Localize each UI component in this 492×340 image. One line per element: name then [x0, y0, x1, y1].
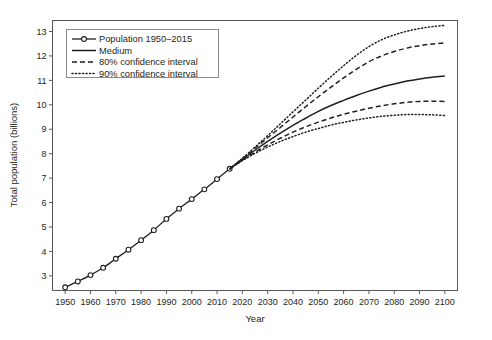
y-tick-label: 9 — [41, 124, 46, 134]
x-tick-label: 2030 — [258, 297, 278, 307]
y-tick-label: 6 — [41, 198, 46, 208]
data-point-marker — [164, 217, 169, 222]
chart-legend: Population 1950–2015 Medium 80% confiden… — [67, 30, 219, 79]
data-point-marker — [75, 279, 80, 284]
data-point-marker — [88, 273, 93, 278]
legend-swatch-open-circle-icon — [82, 37, 87, 42]
x-tick-label: 2060 — [334, 297, 354, 307]
y-tick-label: 11 — [37, 76, 46, 86]
x-tick-label: 2100 — [435, 297, 455, 307]
y-tick-label: 8 — [41, 149, 46, 159]
x-tick-label: 1980 — [131, 297, 151, 307]
data-point-marker — [177, 206, 182, 211]
y-axis-label: Total population (billions) — [8, 103, 19, 208]
legend-label-90-confidence-interval: 90% confidence interval — [99, 69, 198, 79]
data-point-marker — [151, 228, 156, 233]
population-projection-chart: 345678910111213 195019601970198019902000… — [0, 0, 492, 340]
y-tick-label: 4 — [41, 247, 46, 257]
y-tick-label: 13 — [36, 27, 46, 37]
y-tick-label: 10 — [36, 100, 46, 110]
x-tick-label: 2000 — [182, 297, 202, 307]
x-tick-label: 1970 — [106, 297, 126, 307]
x-tick-label: 1990 — [156, 297, 176, 307]
data-point-marker — [202, 187, 207, 192]
legend-label-medium: Medium — [99, 46, 132, 56]
x-tick-label: 2090 — [410, 297, 430, 307]
data-point-marker — [101, 265, 106, 270]
data-point-marker — [113, 256, 118, 261]
chart-figure: 345678910111213 195019601970198019902000… — [0, 0, 492, 340]
data-point-marker — [126, 247, 131, 252]
y-tick-label: 3 — [41, 271, 46, 281]
legend-label-population: Population 1950–2015 — [99, 34, 192, 44]
legend-label-80-confidence-interval: 80% confidence interval — [99, 57, 198, 67]
data-point-marker — [215, 177, 220, 182]
x-tick-label: 2050 — [308, 297, 328, 307]
y-tick-label: 7 — [41, 173, 46, 183]
data-point-marker — [139, 238, 144, 243]
x-tick-label: 1960 — [80, 297, 100, 307]
x-tick-label: 2070 — [359, 297, 379, 307]
y-tick-label: 12 — [36, 51, 46, 61]
x-tick-label: 1950 — [55, 297, 75, 307]
y-tick-label: 5 — [41, 222, 46, 232]
x-tick-label: 2040 — [283, 297, 303, 307]
x-tick-label: 2010 — [207, 297, 227, 307]
data-point-marker — [189, 197, 194, 202]
x-tick-label: 2080 — [384, 297, 404, 307]
data-point-marker — [63, 285, 68, 290]
x-axis-label: Year — [245, 313, 264, 324]
x-tick-label: 2020 — [232, 297, 252, 307]
